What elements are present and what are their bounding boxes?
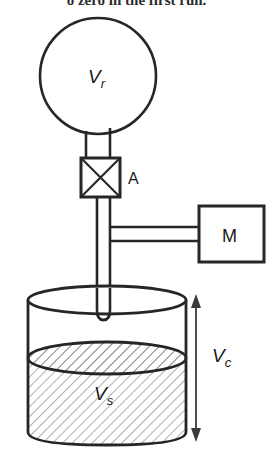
sample-surface-ellipse — [28, 342, 186, 374]
figure-canvas: o zero in the first run. — [0, 0, 273, 474]
cell-dimension-arrowhead-bottom — [191, 428, 201, 442]
cell-volume-label: Vc — [212, 345, 232, 370]
cell-dimension-arrowhead-top — [191, 294, 201, 308]
cell-volume-label-sub: c — [225, 355, 232, 370]
cell-top-rim — [28, 286, 186, 314]
manometer-label: M — [222, 226, 237, 246]
valve-label: A — [128, 170, 139, 187]
sample-volume-label-sub: s — [107, 393, 114, 408]
apparatus-diagram: Vr A M Vc Vs — [0, 0, 273, 474]
reference-volume-label-sub: r — [101, 76, 106, 91]
